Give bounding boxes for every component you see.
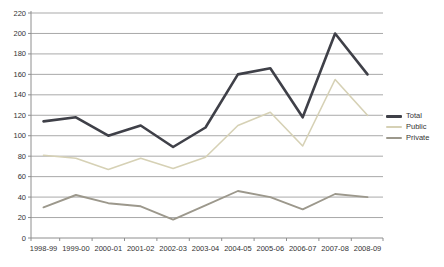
y-axis-tick-label: 160: [13, 70, 26, 79]
x-axis-category-label: 1998-99: [30, 244, 58, 253]
series-line-total: [44, 34, 368, 148]
y-axis-tick-label: 120: [13, 111, 26, 120]
legend-swatch-total: [386, 115, 402, 118]
y-axis-tick-label: 60: [18, 172, 26, 181]
y-axis-tick-label: 40: [18, 193, 26, 202]
y-axis-tick-label: 0: [22, 234, 26, 243]
x-axis-category-label: 2008-09: [354, 244, 382, 253]
x-axis-category-label: 1999-00: [62, 244, 90, 253]
legend-label-public: Public: [406, 123, 426, 131]
y-axis-tick-label: 140: [13, 90, 26, 99]
x-axis-category-label: 2001-02: [127, 244, 155, 253]
x-axis-category-label: 2005-06: [257, 244, 285, 253]
chart-legend: TotalPublicPrivate: [386, 112, 429, 142]
legend-item-public: Public: [386, 123, 429, 131]
legend-label-total: Total: [406, 112, 422, 120]
legend-label-private: Private: [406, 134, 429, 142]
y-axis-tick-label: 100: [13, 131, 26, 140]
x-axis-category-label: 2007-08: [321, 244, 349, 253]
x-axis-category-label: 2004-05: [224, 244, 252, 253]
chart-canvas: 0204060801001201401601802002201998-99199…: [0, 0, 444, 267]
x-axis-category-label: 2003-04: [192, 244, 220, 253]
y-axis-tick-label: 220: [13, 9, 26, 18]
y-axis-tick-label: 80: [18, 152, 26, 161]
line-chart-plot: 0204060801001201401601802002201998-99199…: [0, 0, 444, 267]
series-line-private: [44, 191, 368, 220]
legend-item-private: Private: [386, 134, 429, 142]
y-axis-tick-label: 200: [13, 29, 26, 38]
x-axis-category-label: 2000-01: [95, 244, 123, 253]
x-axis-category-label: 2006-07: [289, 244, 317, 253]
legend-item-total: Total: [386, 112, 429, 120]
x-axis-category-label: 2002-03: [159, 244, 187, 253]
y-axis-tick-label: 20: [18, 213, 26, 222]
legend-swatch-public: [386, 126, 402, 128]
y-axis-tick-label: 180: [13, 49, 26, 58]
legend-swatch-private: [386, 137, 402, 139]
